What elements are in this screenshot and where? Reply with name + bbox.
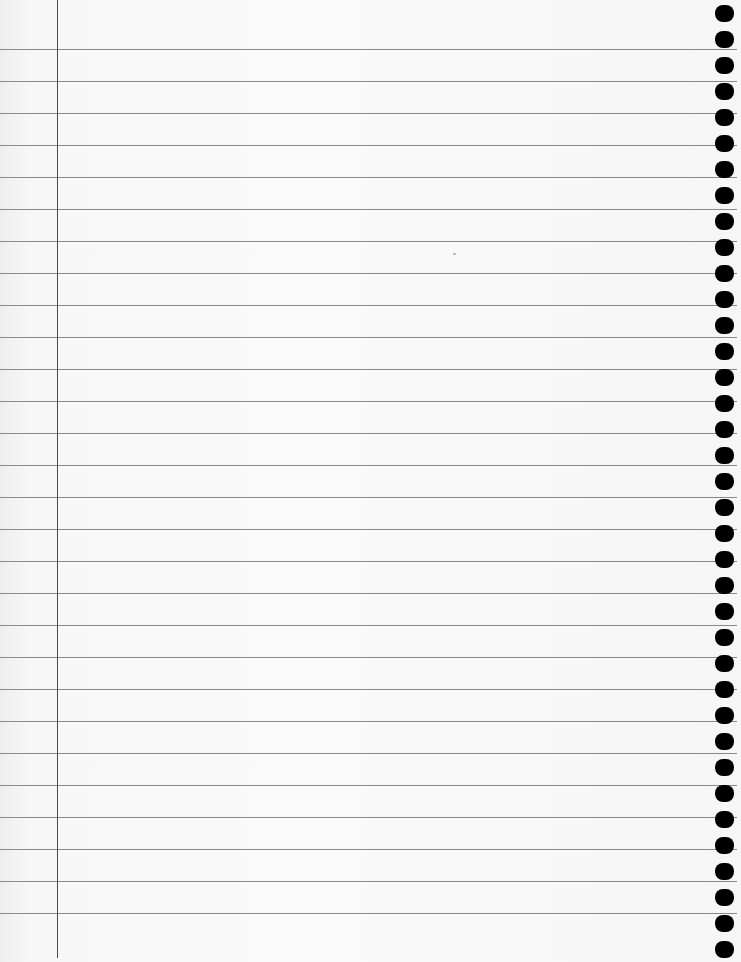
paper-speck — [453, 253, 456, 255]
spiral-hole — [715, 317, 734, 334]
spiral-hole — [715, 369, 734, 386]
spiral-hole — [715, 161, 734, 178]
spiral-hole — [715, 551, 734, 568]
spiral-hole — [715, 265, 734, 282]
spiral-hole — [715, 239, 734, 256]
spiral-hole — [715, 135, 734, 152]
spiral-hole — [715, 187, 734, 204]
notebook-page — [0, 0, 741, 962]
spiral-hole — [715, 577, 734, 594]
spiral-hole — [715, 499, 734, 516]
spiral-hole — [715, 603, 734, 620]
spiral-hole — [715, 629, 734, 646]
spiral-hole — [715, 343, 734, 360]
spiral-hole — [715, 447, 734, 464]
spiral-hole — [715, 421, 734, 438]
spiral-hole — [715, 837, 734, 854]
spiral-hole — [715, 707, 734, 724]
spiral-hole — [715, 213, 734, 230]
spiral-hole — [715, 863, 734, 880]
spiral-hole — [715, 57, 734, 74]
spiral-hole — [715, 733, 734, 750]
spiral-hole — [715, 5, 734, 22]
spiral-hole — [715, 759, 734, 776]
spiral-hole — [715, 681, 734, 698]
spiral-holes — [0, 0, 741, 962]
spiral-hole — [715, 941, 734, 958]
spiral-hole — [715, 109, 734, 126]
spiral-hole — [715, 473, 734, 490]
spiral-hole — [715, 395, 734, 412]
spiral-hole — [715, 31, 734, 48]
spiral-hole — [715, 655, 734, 672]
spiral-hole — [715, 811, 734, 828]
spiral-hole — [715, 889, 734, 906]
spiral-hole — [715, 83, 734, 100]
spiral-hole — [715, 525, 734, 542]
spiral-hole — [715, 785, 734, 802]
spiral-hole — [715, 291, 734, 308]
spiral-hole — [715, 915, 734, 932]
